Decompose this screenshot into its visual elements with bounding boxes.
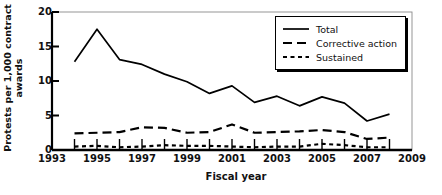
chart-figure: Protests per 1,000 contract awards 05101… xyxy=(0,0,442,195)
legend-item-total[interactable]: Total xyxy=(283,22,398,36)
legend-label: Sustained xyxy=(316,52,363,63)
legend-swatch-solid-icon xyxy=(283,23,309,35)
legend-item-corrective-action[interactable]: Corrective action xyxy=(283,36,398,50)
legend-label: Corrective action xyxy=(316,38,397,49)
legend-swatch-dotted-icon xyxy=(283,51,309,63)
chart-legend: TotalCorrective actionSustained xyxy=(275,16,406,70)
x-axis-title: Fiscal year xyxy=(0,171,442,182)
series-line-corrective-action xyxy=(75,124,390,138)
legend-swatch-dashed-icon xyxy=(283,37,309,49)
legend-label: Total xyxy=(316,24,338,35)
legend-item-sustained[interactable]: Sustained xyxy=(283,50,398,64)
x-axis-title-text: Fiscal year xyxy=(176,171,267,182)
